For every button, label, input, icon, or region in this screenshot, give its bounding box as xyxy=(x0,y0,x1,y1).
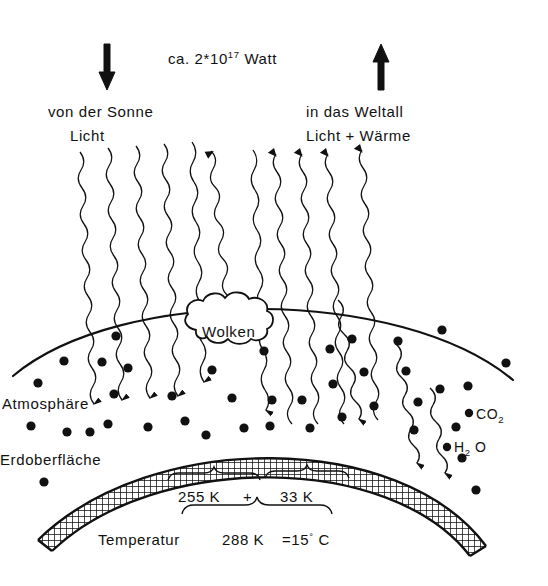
greenhouse-effect-diagram: ca. 2*1017 Watt von der Sonne Licht in d… xyxy=(0,0,548,586)
gas-label-h2o: H2 O xyxy=(443,439,487,458)
temp-operator: + xyxy=(243,488,252,505)
svg-text:CO2: CO2 xyxy=(476,406,504,425)
incoming-label-line1: von der Sonne xyxy=(48,103,153,120)
cloud-interacting-rays xyxy=(210,150,268,410)
power-label: ca. 2*1017 Watt xyxy=(168,49,277,67)
temp-term-a: 255 K xyxy=(178,488,220,505)
outgoing-label-line2: Licht + Wärme xyxy=(306,127,411,144)
cloud-label: Wolken xyxy=(202,323,255,340)
temp-total: 288 K xyxy=(222,531,264,548)
temp-term-b: 33 K xyxy=(280,488,313,505)
temp-celsius: =15° C xyxy=(282,531,330,548)
gas-label-co2: CO2 xyxy=(465,406,504,425)
back-radiation-rays xyxy=(338,300,447,473)
atmosphere-label: Atmosphäre xyxy=(2,395,89,412)
outgoing-radiation-rays xyxy=(273,150,379,424)
outgoing-label-line1: in das Weltall xyxy=(306,103,403,120)
surface-label: Erdoberfläche xyxy=(0,451,101,468)
incoming-solar-rays xyxy=(78,142,206,404)
temperature-label: Temperatur xyxy=(98,531,180,548)
incoming-label-line2: Licht xyxy=(70,127,105,144)
diagram-canvas: ca. 2*1017 Watt von der Sonne Licht in d… xyxy=(0,0,548,586)
outgoing-space-arrow xyxy=(373,44,389,90)
incoming-solar-arrow xyxy=(99,44,115,90)
